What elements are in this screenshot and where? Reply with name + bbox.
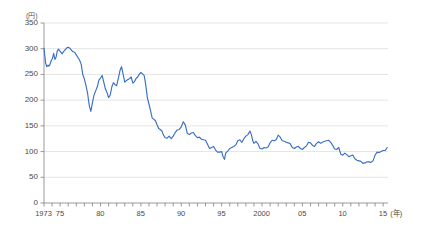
y-axis-tick-label: 200 [0,96,38,104]
y-axis-tick-label: 100 [0,148,38,156]
y-axis-tick-label: 150 [0,122,38,130]
x-axis-tick-label: 80 [96,210,104,218]
y-axis-tick-label: 350 [0,19,38,27]
plot-area [44,23,388,203]
x-axis-tick-label: 15 [379,210,387,218]
yen-exchange-rate-chart: (円) 050100150200250300350 19737580859095… [0,0,424,236]
x-axis-tick-label: 95 [217,210,225,218]
y-axis-tick-label: 300 [0,45,38,53]
x-axis-tick-label: 10 [338,210,346,218]
data-line-series [44,47,387,163]
x-axis-unit-label: (年) [390,210,402,218]
x-axis-tick-label: 2000 [253,210,270,218]
y-axis-tick-label: 50 [0,173,38,181]
chart-canvas [44,23,388,203]
x-axis-tick-label: 05 [298,210,306,218]
x-axis-tick-label: 1973 [35,210,52,218]
x-axis-tick-label: 90 [177,210,185,218]
y-axis-tick-label: 250 [0,70,38,78]
y-axis-tick-label: 0 [0,199,38,207]
x-axis-tick-label: 75 [56,210,64,218]
x-axis-tick-label: 85 [137,210,145,218]
